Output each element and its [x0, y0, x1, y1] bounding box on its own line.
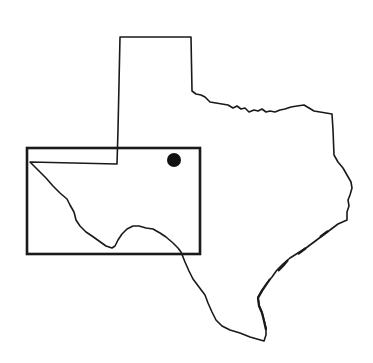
location-marker-dot	[167, 153, 181, 167]
texas-outline	[30, 37, 352, 341]
texas-map	[0, 0, 373, 363]
gulf-coast-detail	[258, 231, 328, 330]
